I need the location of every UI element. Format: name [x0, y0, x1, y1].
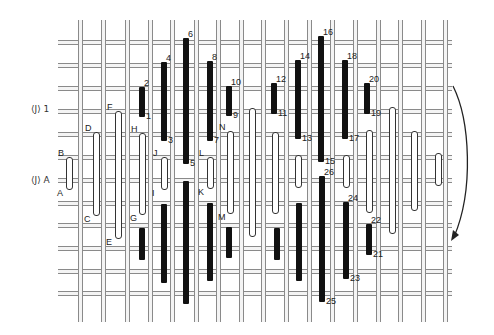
grid-vertical-line [398, 20, 403, 322]
stitch-label-bottom: 5 [190, 159, 195, 168]
black-stitch-bar [139, 228, 145, 260]
black-stitch-bar [161, 204, 167, 283]
grid-vertical-line [216, 20, 221, 322]
stitch-label-bottom: 1 [146, 112, 151, 121]
stitch-label-bottom: E [106, 238, 112, 247]
black-stitch-bar [296, 203, 302, 281]
black-stitch-bar [226, 86, 232, 116]
stitch-label-bottom: 3 [168, 136, 173, 145]
stitch-label-bottom: 7 [214, 136, 219, 145]
stitch-label-top: N [219, 123, 226, 132]
stitch-label-top: 20 [369, 75, 379, 84]
row-label-row1: ⟨J⟩ 1 [31, 104, 49, 114]
grid-vertical-line [421, 20, 426, 322]
grid-vertical-line [307, 20, 312, 322]
white-stitch-bar [227, 131, 234, 214]
black-stitch-bar [319, 176, 325, 302]
stitch-label-bottom: 17 [349, 134, 359, 143]
black-stitch-bar [207, 61, 213, 141]
grid-vertical-line [170, 20, 175, 322]
stitch-label-top: 10 [231, 78, 241, 87]
white-stitch-bar [139, 133, 146, 215]
stitch-label-bottom: 25 [326, 297, 336, 306]
stitch-label-bottom: 13 [302, 134, 312, 143]
grid-vertical-line [78, 20, 83, 322]
grid-vertical-line [239, 20, 244, 322]
black-stitch-bar [207, 203, 213, 281]
grid-horizontal-line [58, 269, 452, 274]
white-stitch-bar [161, 157, 168, 190]
grid-vertical-line [261, 20, 266, 322]
grid-horizontal-line [58, 63, 452, 68]
grid-vertical-line [376, 20, 381, 322]
stitch-label-bottom: 9 [233, 111, 238, 120]
grid-vertical-line [284, 20, 289, 322]
stitch-label-top: 12 [276, 75, 286, 84]
stitch-label-top: L [199, 149, 204, 158]
stitch-label-bottom: 19 [371, 109, 381, 118]
grid-horizontal-line [58, 86, 452, 91]
stitch-label-bottom: 15 [325, 157, 335, 166]
black-stitch-bar [183, 38, 189, 164]
stitch-label-top: 2 [144, 79, 149, 88]
stitch-label-bottom: 23 [350, 274, 360, 283]
stitch-diagram: BADCFEHGJILKNM21436587109121114131615181… [0, 0, 494, 335]
stitch-label-top: 6 [188, 30, 193, 39]
black-stitch-bar [342, 60, 348, 139]
stitch-label-top: J [153, 149, 158, 158]
stitch-label-bottom: C [84, 215, 91, 224]
black-stitch-bar [318, 36, 324, 162]
white-stitch-bar [389, 107, 396, 234]
grid-vertical-line [194, 20, 199, 322]
grid-horizontal-line [58, 291, 452, 296]
black-stitch-bar [271, 83, 277, 114]
white-stitch-bar [115, 111, 122, 239]
black-stitch-bar [295, 60, 301, 139]
white-stitch-bar [295, 155, 302, 188]
stitch-label-top: 26 [324, 168, 334, 177]
black-stitch-bar [366, 224, 372, 255]
white-stitch-bar [343, 155, 350, 188]
stitch-label-top: F [107, 103, 113, 112]
white-stitch-bar [249, 108, 256, 237]
stitch-label-bottom: K [198, 188, 204, 197]
stitch-label-bottom: 21 [373, 250, 383, 259]
black-stitch-bar [343, 202, 349, 279]
row-label-rowA: ⟨J⟩ A [31, 175, 50, 185]
stitch-label-bottom: G [130, 214, 137, 223]
black-stitch-bar [274, 228, 280, 260]
stitch-label-bottom: I [152, 189, 155, 198]
grid-vertical-line [125, 20, 130, 322]
black-stitch-bar [161, 62, 167, 141]
black-stitch-bar [139, 87, 145, 117]
stitch-label-top: 8 [212, 53, 217, 62]
stitch-label-bottom: 11 [278, 109, 287, 118]
black-stitch-bar [183, 181, 189, 304]
stitch-label-top: 22 [371, 216, 381, 225]
black-stitch-bar [226, 227, 232, 258]
white-stitch-bar [366, 130, 373, 213]
stitch-label-bottom: A [57, 189, 63, 198]
white-stitch-bar [93, 132, 100, 216]
stitch-label-top: D [85, 124, 92, 133]
stitch-label-top: 14 [300, 52, 310, 61]
white-stitch-bar [411, 131, 418, 211]
black-stitch-bar [364, 83, 370, 114]
white-stitch-bar [272, 132, 279, 214]
white-stitch-bar [66, 157, 73, 190]
stitch-label-top: H [131, 125, 138, 134]
white-stitch-bar [207, 157, 214, 189]
direction-arrow-icon [440, 80, 480, 250]
stitch-label-top: 4 [166, 54, 171, 63]
grid-horizontal-line [58, 40, 452, 45]
grid-vertical-line [101, 20, 106, 322]
stitch-label-top: 24 [348, 194, 358, 203]
stitch-label-top: 16 [323, 28, 333, 37]
grid-horizontal-line [58, 246, 452, 251]
stitch-label-bottom: M [218, 213, 226, 222]
stitch-label-top: 18 [347, 52, 357, 61]
stitch-label-top: B [58, 149, 64, 158]
grid-vertical-line [148, 20, 153, 322]
